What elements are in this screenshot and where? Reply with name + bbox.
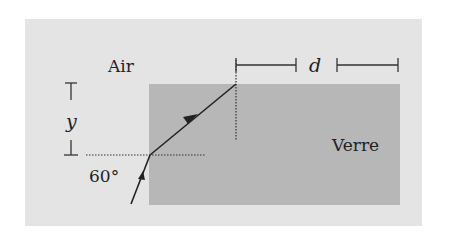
refraction-diagram: y d Air Verre 60°	[0, 0, 470, 244]
incident-ray	[131, 155, 150, 204]
air-label: Air	[107, 56, 135, 76]
y-label: y	[65, 110, 77, 132]
verre-label: Verre	[331, 135, 379, 155]
angle-label: 60°	[89, 166, 119, 186]
d-label: d	[309, 54, 321, 76]
